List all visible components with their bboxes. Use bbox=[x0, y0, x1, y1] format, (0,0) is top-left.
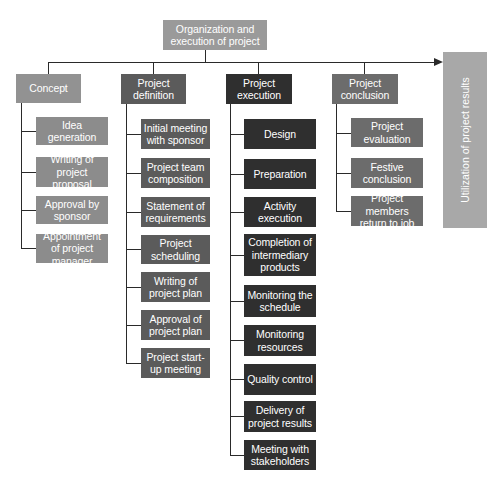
branch bbox=[230, 455, 244, 456]
branch bbox=[126, 363, 141, 364]
concept-item: Writing of project proposal bbox=[36, 157, 108, 187]
branch bbox=[230, 212, 244, 213]
timeline-line bbox=[48, 62, 436, 63]
concept-connector bbox=[48, 62, 49, 74]
branch bbox=[126, 325, 141, 326]
branch bbox=[336, 211, 351, 212]
execution-connector bbox=[258, 62, 259, 74]
definition-item: Writing of project plan bbox=[141, 272, 210, 302]
phase-conclusion: Project conclusion bbox=[332, 74, 398, 104]
execution-item: Monitoring resources bbox=[244, 325, 316, 356]
branch bbox=[126, 287, 141, 288]
definition-item: Initial meeting with sponsor bbox=[141, 119, 210, 149]
definition-item: Statement of requirements bbox=[141, 197, 210, 227]
definition-connector bbox=[153, 62, 154, 74]
root-node: Organization and execution of project bbox=[163, 20, 267, 50]
branch bbox=[230, 340, 244, 341]
outcome-label: Utilization of project results bbox=[459, 77, 471, 202]
conclusion-item: Project evaluation bbox=[351, 118, 423, 147]
branch bbox=[21, 210, 36, 211]
arrow-head-icon bbox=[434, 58, 443, 66]
concept-item: Approval by sponsor bbox=[36, 196, 108, 224]
conclusion-item: Project members return to job bbox=[351, 196, 423, 226]
execution-item: Design bbox=[244, 119, 316, 149]
execution-item: Quality control bbox=[244, 364, 316, 395]
conclusion-item: Festive conclusion bbox=[351, 158, 423, 188]
branch bbox=[126, 173, 141, 174]
branch bbox=[230, 134, 244, 135]
execution-item: Preparation bbox=[244, 159, 316, 189]
concept-spine bbox=[21, 103, 22, 249]
concept-item: Appointment of project manager bbox=[36, 234, 108, 263]
execution-item: Monitoring the schedule bbox=[244, 285, 316, 317]
execution-item: Activity execution bbox=[244, 197, 316, 227]
branch bbox=[336, 173, 351, 174]
definition-item: Project scheduling bbox=[141, 235, 210, 264]
branch bbox=[126, 249, 141, 250]
branch bbox=[126, 134, 141, 135]
branch bbox=[336, 133, 351, 134]
execution-item: Meeting with stakeholders bbox=[244, 440, 316, 470]
phase-definition: Project definition bbox=[121, 74, 186, 104]
definition-item: Approval of project plan bbox=[141, 310, 210, 340]
branch bbox=[230, 379, 244, 380]
branch bbox=[230, 416, 244, 417]
branch bbox=[21, 248, 36, 249]
definition-item: Project team composition bbox=[141, 158, 210, 188]
outcome-node: Utilization of project results bbox=[443, 52, 487, 228]
branch bbox=[230, 255, 244, 256]
execution-item: Completion of intermediary products bbox=[244, 234, 316, 276]
branch bbox=[126, 212, 141, 213]
conclusion-spine bbox=[336, 104, 337, 212]
phase-execution: Project execution bbox=[226, 74, 292, 104]
root-connector bbox=[205, 50, 206, 62]
execution-spine bbox=[230, 104, 231, 456]
execution-item: Delivery of project results bbox=[244, 401, 316, 432]
branch bbox=[230, 301, 244, 302]
branch bbox=[230, 174, 244, 175]
branch bbox=[21, 172, 36, 173]
definition-item: Project start-up meeting bbox=[141, 348, 210, 378]
concept-item: Idea generation bbox=[36, 117, 108, 145]
conclusion-connector bbox=[364, 62, 365, 74]
branch bbox=[21, 131, 36, 132]
phase-concept: Concept bbox=[16, 74, 81, 103]
